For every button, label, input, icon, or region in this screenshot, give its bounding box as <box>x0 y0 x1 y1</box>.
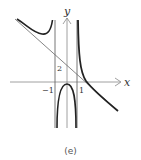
y-axis-label: y <box>63 5 71 18</box>
tick-label-x-neg1: −1 <box>42 86 54 95</box>
figure-caption: (e) <box>0 146 141 156</box>
graph-figure: x y −1 1 2 (e) <box>0 0 141 160</box>
function-plot: x y −1 1 2 <box>0 0 141 145</box>
x-axis-label: x <box>124 76 131 89</box>
tick-label-y-2: 2 <box>57 64 62 73</box>
curve-middle-branch <box>57 84 76 128</box>
curve-left-branch <box>17 19 53 34</box>
tick-label-x-1: 1 <box>79 86 84 95</box>
curve-right-branch <box>78 20 118 111</box>
